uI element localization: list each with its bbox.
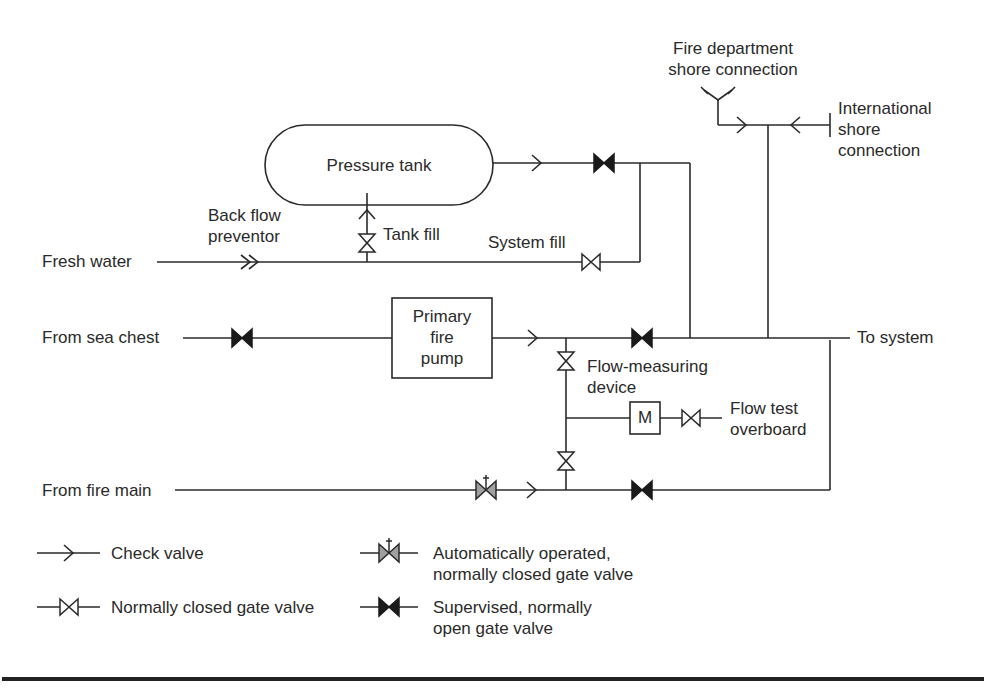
supervised-gate-valve-icon <box>379 598 399 616</box>
from-sea-chest-label: From sea chest <box>42 327 159 348</box>
closed-gate-valve-icon <box>558 352 574 370</box>
bottom-rule <box>2 677 984 681</box>
fire-department-shore-connection-label: Fire department shore connection <box>658 38 808 80</box>
closed-gate-valve-icon <box>359 234 375 252</box>
to-system-label: To system <box>857 327 934 348</box>
closed-gate-valve-icon <box>582 254 600 270</box>
supervised-gate-valve-icon <box>594 154 614 172</box>
closed-gate-valve-icon <box>558 452 574 470</box>
supervised-gate-valve-icon <box>632 329 652 347</box>
flow-measuring-device-label: Flow-measuring device <box>587 356 708 398</box>
legend-supervised-valve-label: Supervised, normally open gate valve <box>433 597 592 639</box>
flow-test-overboard-label: Flow test overboard <box>730 398 807 440</box>
closed-gate-valve-icon <box>60 599 78 615</box>
auto-gate-valve-icon <box>379 538 399 562</box>
international-shore-connection-label: International shore connection <box>838 98 932 161</box>
legend-closed-valve-label: Normally closed gate valve <box>111 597 314 618</box>
back-flow-preventor-label: Back flow preventor <box>208 205 281 247</box>
auto-gate-valve-icon <box>476 475 496 499</box>
legend-auto-valve-label: Automatically operated, normally closed … <box>433 543 633 585</box>
tank-fill-label: Tank fill <box>383 224 440 245</box>
flow-meter-label: M <box>630 407 660 428</box>
pressure-tank-label: Pressure tank <box>265 155 493 176</box>
fire-department-connection-icon <box>704 90 732 100</box>
closed-gate-valve-icon <box>682 410 700 426</box>
legend-check-valve-label: Check valve <box>111 543 204 564</box>
primary-fire-pump-label: Primary fire pump <box>392 306 492 369</box>
fresh-water-label: Fresh water <box>42 251 132 272</box>
from-fire-main-label: From fire main <box>42 480 152 501</box>
supervised-gate-valve-icon <box>632 481 652 499</box>
supervised-gate-valve-icon <box>232 329 252 347</box>
system-fill-label: System fill <box>488 232 565 253</box>
